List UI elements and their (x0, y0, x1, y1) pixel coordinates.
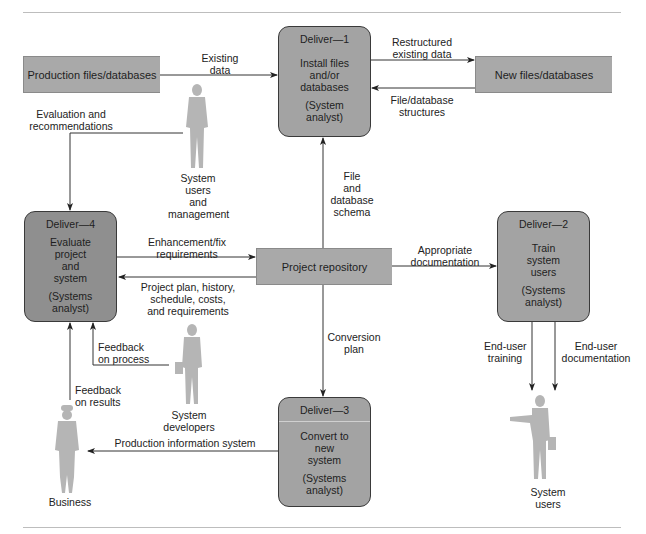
role-line: analyst) (279, 111, 370, 123)
role-line: (Systems (498, 284, 589, 296)
process-task: Evaluate project and system (25, 236, 116, 284)
role-line: (Systems (279, 472, 370, 484)
actor-label-users-management: Systemusers andmanagement (168, 172, 228, 220)
task-line: system (25, 272, 116, 284)
flow-label-feedback-results: Feedbackon results (75, 384, 135, 408)
project-repository-store[interactable]: Project repository (256, 248, 392, 285)
flow-label-end-user-training: End-usertraining (484, 340, 526, 364)
project-repository-label: Project repository (282, 261, 368, 273)
flow-label-file-database-structures: File/databasestructures (384, 94, 460, 118)
flow-label-evaluation-recommendations: Evaluation andrecommendations (26, 108, 116, 132)
process-deliver-4[interactable]: Deliver—4 Evaluate project and system (S… (24, 211, 117, 322)
flow-label-project-plan-history: Project plan, history,schedule, costs, a… (138, 281, 238, 317)
flow-label-file-database-schema: Fileand databaseschema (327, 170, 377, 218)
task-line: and/or (279, 69, 370, 81)
role-line: analyst) (279, 484, 370, 496)
task-line: databases (279, 81, 370, 93)
new-files-label: New files/databases (495, 69, 593, 81)
person-icon-developers (172, 322, 206, 408)
flow-label-conversion-plan: Conversionplan (326, 331, 382, 355)
process-deliver-1[interactable]: Deliver—1 Install files and/or databases… (278, 26, 371, 137)
process-header: Deliver—1 (279, 27, 370, 47)
task-line: system (498, 254, 589, 266)
flow-label-production-information-system: Production information system (114, 437, 256, 449)
flow-label-appropriate-documentation: Appropriatedocumentation (407, 244, 483, 268)
process-header: Deliver—2 (498, 212, 589, 232)
process-task: Convert to new system (279, 430, 370, 466)
task-line: users (498, 266, 589, 278)
process-role: (System analyst) (279, 99, 370, 123)
process-deliver-3[interactable]: Deliver—3 Convert to new system (Systems… (278, 397, 371, 507)
flow-label-end-user-documentation: End-userdocumentation (560, 340, 632, 364)
flow-label-restructured-existing-data: Restructuredexisting data (387, 36, 457, 60)
task-line: Install files (279, 57, 370, 69)
production-files-label: Production files/databases (27, 69, 156, 81)
production-files-store[interactable]: Production files/databases (23, 56, 160, 93)
process-task: Train system users (498, 242, 589, 278)
process-header: Deliver—3 (279, 398, 370, 422)
task-line: system (279, 454, 370, 466)
process-role: (Systems analyst) (25, 290, 116, 314)
process-header: Deliver—4 (25, 212, 116, 232)
task-line: Evaluate (25, 236, 116, 248)
flow-label-feedback-process: Feedbackon process (98, 341, 158, 365)
task-line: Convert to (279, 430, 370, 442)
new-files-store[interactable]: New files/databases (475, 56, 612, 93)
role-line: analyst) (25, 302, 116, 314)
person-icon-business (52, 405, 82, 495)
role-line: analyst) (498, 296, 589, 308)
task-line: Train (498, 242, 589, 254)
process-role: (Systems analyst) (279, 472, 370, 496)
role-line: (Systems (25, 290, 116, 302)
flow-label-existing-data: Existingdata (200, 52, 240, 76)
process-task: Install files and/or databases (279, 57, 370, 93)
actor-label-developers: Systemdevelopers (156, 409, 222, 433)
process-role: (Systems analyst) (498, 284, 589, 308)
person-icon-system-users (510, 395, 560, 481)
task-line: new (279, 442, 370, 454)
actor-label-business: Business (40, 496, 100, 508)
actor-label-system-users: Systemusers (518, 486, 578, 510)
task-line: and (25, 260, 116, 272)
person-icon-users-management (180, 82, 214, 172)
task-line: project (25, 248, 116, 260)
process-deliver-2[interactable]: Deliver—2 Train system users (Systems an… (497, 211, 590, 322)
flow-label-enhancement-fix: Enhancement/fixrequirements (145, 236, 229, 260)
role-line: (System (279, 99, 370, 111)
